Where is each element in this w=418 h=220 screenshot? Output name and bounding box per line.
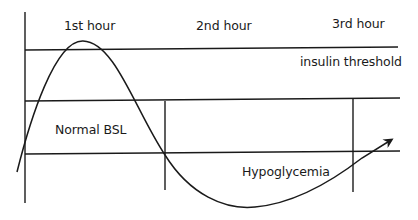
hour-3-label: 3rd hour [332,18,385,31]
normal-bsl-label: Normal BSL [55,124,126,137]
hour-1-label: 1st hour [64,20,115,33]
diagram-graphics [0,0,418,220]
insulin-threshold-line [25,47,398,50]
hour-2-label: 2nd hour [196,20,252,33]
blood-sugar-diagram: 1st hour 2nd hour 3rd hour insulin thres… [0,0,418,220]
normal-upper-line [25,98,400,101]
insulin-threshold-label: insulin threshold [300,56,402,69]
hypoglycemia-label: Hypoglycemia [242,166,330,179]
normal-lower-line [25,151,400,154]
